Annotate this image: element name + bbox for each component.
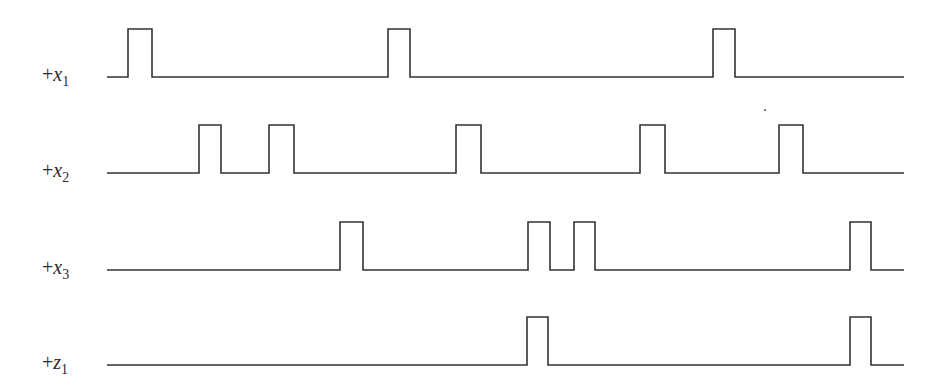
signal-label-x3: +x3 (42, 257, 69, 282)
waveform-x1 (107, 29, 904, 77)
label-var: z (53, 351, 61, 373)
label-sign: + (42, 63, 53, 85)
waveform-x3 (107, 222, 904, 270)
label-sub: 2 (62, 170, 69, 185)
waveform-z1 (107, 317, 904, 365)
label-sub: 3 (62, 267, 69, 282)
signal-label-z1: +z1 (42, 352, 68, 377)
label-var: x (53, 256, 62, 278)
stray-dot (764, 109, 766, 111)
waveform-x2 (107, 125, 904, 173)
signal-label-x2: +x2 (42, 160, 69, 185)
timing-diagram (0, 0, 939, 388)
label-sign: + (42, 256, 53, 278)
label-var: x (53, 63, 62, 85)
label-sub: 1 (62, 74, 69, 89)
label-sign: + (42, 159, 53, 181)
label-sub: 1 (61, 362, 68, 377)
label-sign: + (42, 351, 53, 373)
signal-label-x1: +x1 (42, 64, 69, 89)
label-var: x (53, 159, 62, 181)
